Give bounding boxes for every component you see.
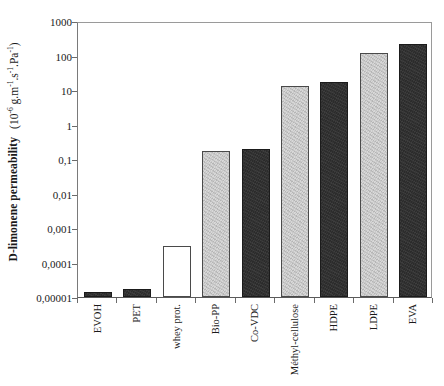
x-tick-label: EVA	[407, 304, 418, 324]
bar-whey-prot	[163, 246, 191, 297]
y-tick-label: 10	[16, 86, 72, 97]
x-label-slot: whey prot.	[156, 302, 195, 386]
y-tick-label: 100	[16, 51, 72, 62]
bar-bio-pp	[202, 151, 230, 297]
bar-m-thyl-cellulose	[281, 86, 309, 297]
x-tick-label: Bio-PP	[210, 304, 221, 334]
x-label-slot: EVA	[393, 302, 432, 386]
bar-evoh	[84, 292, 112, 297]
x-label-slot: Bio-PP	[195, 302, 234, 386]
plot-area	[77, 22, 432, 298]
y-tick-label: 1	[16, 120, 72, 131]
x-tick-label: LDPE	[367, 304, 378, 330]
units-exponent-4: -1	[6, 46, 15, 52]
units-exponent-2: -1	[6, 81, 15, 87]
x-tick-label: Co-VDC	[249, 304, 260, 342]
units-exponent-1: -6	[6, 107, 15, 113]
x-tick-label: Méthyl-cellulose	[288, 304, 299, 375]
x-label-slot: LDPE	[353, 302, 392, 386]
x-label-slot: EVOH	[77, 302, 116, 386]
bar-co-vdc	[242, 149, 270, 297]
x-label-slot: Co-VDC	[235, 302, 274, 386]
x-label-slot: HDPE	[314, 302, 353, 386]
bar-pet	[123, 289, 151, 297]
units-exponent-3: -1	[6, 67, 15, 73]
x-label-slot: Méthyl-cellulose	[274, 302, 313, 386]
y-tick-label: 0,001	[16, 224, 72, 235]
x-tick-label: EVOH	[91, 304, 102, 333]
x-label-slot: PET	[116, 302, 155, 386]
x-tick-label: HDPE	[328, 304, 339, 331]
y-tick-label: 0,1	[16, 155, 72, 166]
x-axis-category-labels: EVOHPETwhey prot.Bio-PPCo-VDCMéthyl-cell…	[77, 302, 432, 386]
y-tick-label: 1000	[16, 17, 72, 28]
y-tick-label: 0,0001	[16, 258, 72, 269]
bar-ldpe	[360, 53, 388, 297]
x-tick-label: PET	[131, 304, 142, 323]
y-axis-tick-labels: 10001001010,10,010,0010,00010,00001	[16, 0, 72, 386]
x-tick-mark	[432, 298, 433, 303]
bar-hdpe	[320, 82, 348, 297]
y-tick-label: 0,00001	[16, 293, 72, 304]
chart-figure: D-limonene permeability (10-6 g.m-1.s-1.…	[0, 0, 444, 386]
bar-eva	[399, 44, 427, 297]
x-tick-label: whey prot.	[170, 304, 181, 349]
y-tick-label: 0,01	[16, 189, 72, 200]
bar-series	[78, 23, 431, 297]
